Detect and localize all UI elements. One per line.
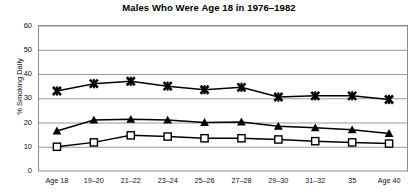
series-line (57, 119, 389, 133)
y-tick-label: 50 (10, 45, 32, 54)
chart-figure: Males Who Were Age 18 in 1976–1982 % Smo… (0, 0, 418, 195)
y-tick-label: 40 (10, 69, 32, 78)
plot-area (0, 0, 418, 195)
data-point-open-square (201, 135, 208, 142)
x-tick-label: Age 40 (366, 176, 412, 185)
data-series-group (53, 77, 394, 151)
y-tick-label: 30 (10, 93, 32, 102)
data-point-open-square (164, 133, 171, 140)
data-point-open-square (312, 138, 319, 145)
series-x-star (53, 77, 393, 104)
data-point-open-square (90, 139, 97, 146)
data-point-open-square (127, 132, 134, 139)
series-line (57, 135, 389, 146)
series-filled-triangle (53, 115, 394, 137)
data-point-open-square (53, 143, 60, 150)
y-tick-label: 10 (10, 142, 32, 151)
data-point-open-square (275, 136, 282, 143)
data-point-open-square (349, 139, 356, 146)
y-tick-label: 20 (10, 118, 32, 127)
y-tick-label: 0 (10, 166, 32, 175)
data-point-open-square (385, 140, 392, 147)
data-point-open-square (238, 135, 245, 142)
series-line (57, 81, 389, 99)
y-tick-label: 60 (10, 21, 32, 30)
